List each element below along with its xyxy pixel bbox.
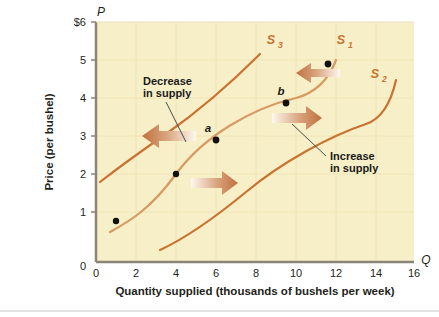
- x-tick-10: 10: [290, 267, 302, 279]
- curve-label-s3-sub: 3: [278, 40, 283, 50]
- point-a-label: a: [205, 122, 212, 134]
- increase-label-line2: in supply: [330, 162, 379, 174]
- x-tick-16: 16: [408, 267, 420, 279]
- data-point-b: [283, 100, 290, 107]
- x-axis-title: Quantity supplied (thousands of bushels …: [115, 285, 394, 297]
- curve-label-s1-sub: 1: [348, 40, 353, 50]
- point-b-label: b: [277, 85, 284, 97]
- x-tick-0: 0: [93, 267, 99, 279]
- data-point-12-5: [325, 61, 332, 68]
- y-tick-4: 4: [80, 92, 86, 104]
- y-tick-5: 5: [80, 54, 86, 66]
- y-axis-title: Price (per bushel): [43, 93, 55, 190]
- y-axis-symbol: P: [97, 5, 105, 19]
- x-tick-12: 12: [330, 267, 342, 279]
- curve-label-s3-base: S: [267, 33, 276, 47]
- y-tick-1: 1: [80, 206, 86, 218]
- data-point-a: [213, 137, 220, 144]
- y-tick-6: $6: [74, 16, 86, 28]
- supply-shift-figure: $6 5 4 3 2 1 0 0 2 4 6 8 10 12 14 16 P Q…: [0, 0, 439, 317]
- curve-label-s1-base: S: [337, 33, 346, 47]
- decrease-label-line1: Decrease: [143, 75, 192, 87]
- x-tick-6: 6: [213, 267, 219, 279]
- y-tick-2: 2: [80, 168, 86, 180]
- curve-label-s2-base: S: [371, 67, 380, 81]
- y-tick-3: 3: [80, 130, 86, 142]
- x-tick-2: 2: [133, 267, 139, 279]
- x-axis-symbol: Q: [421, 253, 430, 267]
- x-tick-14: 14: [370, 267, 382, 279]
- x-tick-8: 8: [253, 267, 259, 279]
- x-tick-4: 4: [173, 267, 179, 279]
- decrease-label-line2: in supply: [143, 87, 192, 99]
- y-tick-0: 0: [80, 260, 86, 272]
- data-point-1-1: [113, 218, 119, 224]
- data-point-4-2: [173, 171, 179, 177]
- chart-svg: $6 5 4 3 2 1 0 0 2 4 6 8 10 12 14 16 P Q…: [0, 0, 439, 317]
- increase-label-line1: Increase: [330, 150, 375, 162]
- curve-label-s2-sub: 2: [381, 74, 387, 84]
